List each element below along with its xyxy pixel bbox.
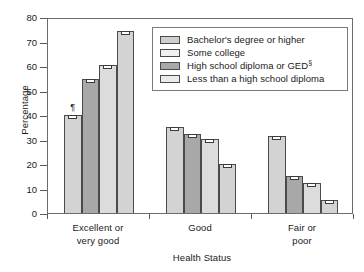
bar — [99, 65, 117, 213]
x-axis-category-label: Fair orpoor — [247, 222, 357, 247]
y-axis-tick-label: 20 — [14, 160, 37, 170]
bar — [303, 183, 321, 213]
y-axis-tick — [40, 92, 47, 93]
error-bar — [272, 136, 281, 140]
y-axis-tick-label: 0 — [14, 209, 37, 219]
legend-swatch — [160, 62, 180, 70]
y-axis-tick — [40, 116, 47, 117]
bar-footnote-marker: ¶ — [70, 103, 75, 112]
x-axis-tick — [149, 214, 150, 219]
y-axis-tick — [40, 67, 47, 68]
y-axis-tick — [40, 190, 47, 191]
y-axis-tick-label: 70 — [14, 38, 37, 48]
error-bar — [68, 115, 77, 119]
legend-swatch — [160, 49, 180, 57]
bar — [184, 134, 202, 213]
y-axis-tick — [40, 43, 47, 44]
y-axis-tick-label: 30 — [14, 136, 37, 146]
error-bar — [205, 139, 214, 143]
x-axis-tick — [353, 214, 354, 219]
legend-item: Less than a high school diploma — [160, 72, 341, 85]
legend-item: Some college — [160, 46, 341, 59]
legend: Bachelor's degree or higherSome collegeH… — [152, 27, 348, 91]
y-axis-tick-label: 80 — [14, 13, 37, 23]
error-bar — [307, 183, 316, 187]
legend-swatch — [160, 36, 180, 44]
y-axis-tick-label: 50 — [14, 87, 37, 97]
legend-label: High school diploma or GED§ — [187, 60, 312, 71]
y-axis-tick-label: 40 — [14, 111, 37, 121]
bar — [166, 127, 184, 213]
bar — [82, 79, 100, 213]
bar — [201, 139, 219, 213]
error-bar — [86, 79, 95, 83]
bar-chart-figure: Percentage 01020304050607080 ¶ Bachelor'… — [0, 0, 364, 272]
error-bar — [290, 176, 299, 180]
error-bar — [103, 65, 112, 69]
plot-area: ¶ Bachelor's degree or higherSome colleg… — [47, 18, 353, 214]
legend-label: Some college — [187, 47, 245, 58]
legend-label: Less than a high school diploma — [187, 73, 324, 84]
legend-label: Bachelor's degree or higher — [187, 34, 305, 45]
bar — [286, 176, 304, 213]
x-axis-category-label: Excellent orvery good — [43, 222, 153, 247]
legend-item: High school diploma or GED§ — [160, 59, 341, 72]
bar — [268, 136, 286, 213]
x-axis-tick — [251, 214, 252, 219]
bar — [64, 115, 82, 213]
y-axis-tick — [40, 165, 47, 166]
x-axis-title: Health Status — [47, 252, 357, 263]
legend-swatch — [160, 75, 180, 83]
y-axis-tick — [40, 214, 47, 215]
y-axis-tick-label: 60 — [14, 62, 37, 72]
error-bar — [223, 164, 232, 168]
y-axis-tick — [40, 141, 47, 142]
error-bar — [188, 134, 197, 138]
error-bar — [325, 200, 334, 204]
error-bar — [121, 31, 130, 35]
bar — [219, 164, 237, 213]
bar — [117, 31, 135, 213]
x-axis-tick — [47, 214, 48, 219]
y-axis-tick — [40, 18, 47, 19]
x-axis-category-label: Good — [145, 222, 255, 235]
y-axis-tick-label: 10 — [14, 185, 37, 195]
error-bar — [170, 127, 179, 131]
legend-item: Bachelor's degree or higher — [160, 33, 341, 46]
